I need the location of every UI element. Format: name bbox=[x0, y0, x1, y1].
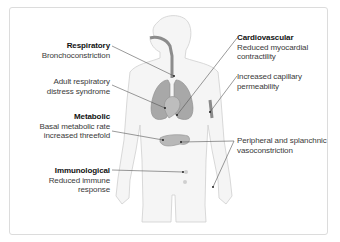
callout-text: contractility bbox=[237, 52, 308, 62]
callout-heading: Metabolic bbox=[40, 112, 110, 122]
callout-metabolic: Metabolic Basal metabolic rate increased… bbox=[40, 112, 110, 141]
callout-text: Adult respiratory bbox=[47, 77, 110, 87]
stomach-icon bbox=[160, 135, 190, 146]
callout-ards: Adult respiratory distress syndrome bbox=[47, 77, 110, 96]
callout-text: Reduced myocardial bbox=[237, 43, 308, 53]
callout-text: response bbox=[49, 185, 110, 195]
callout-heading: Respiratory bbox=[42, 41, 110, 51]
callout-text: Basal metabolic rate bbox=[40, 122, 110, 132]
callout-respiratory: Respiratory Bronchoconstriction bbox=[42, 41, 110, 60]
callout-text: Reduced immune bbox=[49, 176, 110, 186]
body-outline-icon bbox=[116, 16, 232, 222]
callout-heading: Cardiovascular bbox=[237, 33, 308, 43]
callout-text: increased threefold bbox=[40, 131, 110, 141]
callout-text: Increased capillary bbox=[237, 72, 302, 82]
callout-immunological: Immunological Reduced immune response bbox=[49, 166, 110, 195]
callout-capillary: Increased capillary permeability bbox=[237, 72, 302, 91]
callout-text: distress syndrome bbox=[47, 87, 110, 97]
callout-text: Bronchoconstriction bbox=[42, 51, 110, 61]
callout-text: permeability bbox=[237, 82, 302, 92]
callout-text: Peripheral and splanchnic bbox=[237, 136, 327, 146]
callout-cardiovascular: Cardiovascular Reduced myocardial contra… bbox=[237, 33, 308, 62]
callout-peripheral: Peripheral and splanchnic vasoconstricti… bbox=[237, 136, 327, 155]
callout-heading: Immunological bbox=[49, 166, 110, 176]
arm-vessel-icon bbox=[210, 100, 212, 118]
callout-text: vasoconstriction bbox=[237, 146, 327, 156]
